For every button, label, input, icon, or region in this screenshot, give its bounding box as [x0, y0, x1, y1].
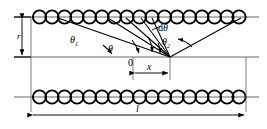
- sphere: [170, 90, 183, 103]
- sphere: [183, 90, 196, 103]
- sphere: [95, 10, 108, 23]
- sphere: [170, 10, 183, 23]
- sphere: [83, 10, 96, 23]
- sphere: [45, 10, 58, 23]
- sphere: [45, 90, 58, 103]
- ray-theta2: [170, 18, 241, 57]
- sphere: [158, 90, 171, 103]
- sphere: [195, 90, 208, 103]
- arc-theta1: [103, 45, 112, 54]
- sphere: [183, 10, 196, 23]
- sphere: [133, 90, 146, 103]
- sphere: [145, 90, 158, 103]
- top-sphere-chain: [33, 10, 246, 23]
- sphere: [58, 90, 71, 103]
- angle-arcs: [103, 37, 192, 54]
- sphere: [33, 10, 46, 23]
- arc-theta: [132, 40, 139, 53]
- sphere: [208, 10, 221, 23]
- sphere: [145, 10, 158, 23]
- sphere: [232, 90, 245, 103]
- sphere: [158, 10, 171, 23]
- reference-lines: [14, 17, 259, 97]
- sphere: [83, 90, 96, 103]
- sphere: [195, 10, 208, 23]
- sphere: [95, 90, 108, 103]
- diagram-svg: [0, 0, 267, 129]
- arc-inner: [158, 43, 160, 53]
- sphere: [70, 90, 83, 103]
- sphere: [208, 90, 221, 103]
- sphere: [120, 90, 133, 103]
- figure-canvas: r θ1 θ dθ θ2 0 x l: [0, 0, 267, 129]
- bottom-sphere-chain: [33, 90, 246, 103]
- dimension-r: [14, 17, 31, 57]
- sphere: [33, 90, 46, 103]
- sphere: [70, 10, 83, 23]
- sphere: [108, 90, 121, 103]
- sphere: [120, 10, 133, 23]
